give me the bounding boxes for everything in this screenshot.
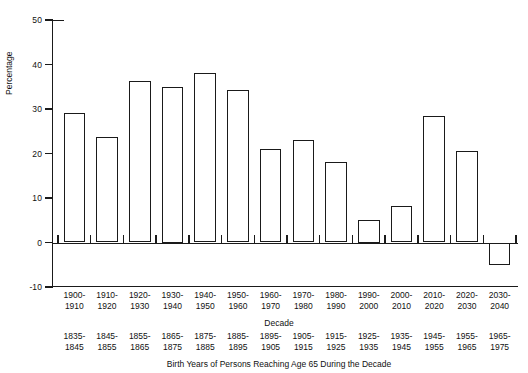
bar-chart-figure: Percentage -1001020304050 1900-19101910-…: [0, 0, 528, 373]
bar: [489, 243, 511, 265]
birth-start: 1865-: [162, 331, 184, 341]
bar: [391, 206, 413, 242]
y-tick-20: [45, 153, 53, 154]
decade-start: 1900-: [63, 290, 85, 300]
birth-start: 1935-: [391, 331, 413, 341]
decade-end: 2040: [479, 301, 520, 312]
bar: [358, 220, 380, 242]
y-tick-label-50: 50: [18, 15, 42, 25]
bar: [96, 137, 118, 243]
birth-start: 1965-: [489, 331, 511, 341]
bar: [227, 90, 249, 243]
birth-start: 1885-: [227, 331, 249, 341]
x-tick: [188, 235, 189, 243]
bar: [194, 73, 216, 242]
y-tick--10: [45, 286, 53, 287]
decade-start: 1990-: [358, 290, 380, 300]
birth-start: 1925-: [358, 331, 380, 341]
y-tick-40: [45, 64, 53, 65]
decade-start: 2010-: [423, 290, 445, 300]
x-tick: [57, 235, 58, 243]
x-tick: [155, 235, 156, 243]
plot-area: [52, 20, 518, 287]
x-tick: [123, 235, 124, 243]
y-tick-label-40: 40: [18, 60, 42, 70]
birth-start: 1955-: [456, 331, 478, 341]
y-tick-0: [45, 242, 53, 243]
y-tick-label-10: 10: [18, 193, 42, 203]
birth-start: 1845-: [96, 331, 118, 341]
x-tick: [417, 235, 418, 243]
bar: [423, 116, 445, 243]
x-tick: [319, 235, 320, 243]
birth-start: 1875-: [194, 331, 216, 341]
y-tick-label--10: -10: [18, 282, 42, 292]
birth-start: 1945-: [423, 331, 445, 341]
y-tick-50: [45, 19, 53, 20]
decade-start: 1950-: [227, 290, 249, 300]
birth-year-label: 1965-1975: [479, 331, 520, 352]
x-tick: [254, 235, 255, 243]
decade-start: 1970-: [292, 290, 314, 300]
x-axis-title: Decade: [0, 318, 528, 328]
birth-start: 1915-: [325, 331, 347, 341]
bar: [64, 113, 86, 242]
y-axis-title: Percentage: [4, 52, 14, 95]
bar: [260, 149, 282, 242]
decade-start: 1960-: [260, 290, 282, 300]
decade-start: 2030-: [489, 290, 511, 300]
x-tick: [352, 235, 353, 243]
y-tick-label-20: 20: [18, 149, 42, 159]
y-tick-30: [45, 108, 53, 109]
decade-start: 1930-: [162, 290, 184, 300]
x-tick: [450, 235, 451, 243]
birth-start: 1835-: [63, 331, 85, 341]
decade-start: 1940-: [194, 290, 216, 300]
bar: [293, 140, 315, 242]
x-axis-bottom-line: [52, 286, 518, 287]
x-tick: [286, 235, 287, 243]
y-tick-label-0: 0: [18, 238, 42, 248]
decade-start: 1910-: [96, 290, 118, 300]
decade-start: 2020-: [456, 290, 478, 300]
birth-end: 1975: [479, 342, 520, 353]
x-category-label: 2030-2040: [479, 290, 520, 311]
bar: [456, 151, 478, 243]
birth-start: 1905-: [292, 331, 314, 341]
x-tick: [515, 235, 516, 243]
decade-start: 1980-: [325, 290, 347, 300]
x-tick: [221, 235, 222, 243]
birth-start: 1855-: [129, 331, 151, 341]
y-tick-label-30: 30: [18, 104, 42, 114]
zero-baseline: [52, 243, 518, 244]
bar: [325, 162, 347, 242]
decade-start: 1920-: [129, 290, 151, 300]
y-tick-10: [45, 197, 53, 198]
x-tick: [384, 235, 385, 243]
x-tick: [483, 235, 484, 243]
figure-caption: Birth Years of Persons Reaching Age 65 D…: [0, 359, 528, 369]
y-axis-top-cap: [52, 20, 64, 21]
decade-start: 2000-: [391, 290, 413, 300]
bar: [162, 87, 184, 243]
birth-start: 1895-: [260, 331, 282, 341]
bar: [129, 81, 151, 243]
x-tick: [90, 235, 91, 243]
